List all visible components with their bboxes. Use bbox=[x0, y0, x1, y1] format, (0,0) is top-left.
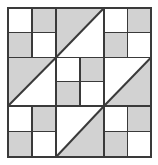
four-patch-center bbox=[56, 58, 104, 107]
four-patch-top-left-patch-top-right bbox=[32, 8, 56, 33]
four-patch-bottom-right-patch-bottom-right bbox=[128, 132, 152, 158]
four-patch-top-right bbox=[104, 8, 151, 58]
four-patch-bottom-right-patch-bottom-left bbox=[104, 132, 128, 158]
four-patch-bottom-right-patch-top-left bbox=[104, 106, 128, 132]
four-patch-center-patch-top-left bbox=[56, 58, 80, 82]
four-patch-center-patch-bottom-left bbox=[56, 82, 80, 106]
four-patch-bottom-left-patch-bottom-right bbox=[32, 132, 56, 158]
four-patch-top-right-patch-top-left bbox=[104, 8, 128, 33]
four-patch-top-right-patch-bottom-left bbox=[104, 33, 128, 58]
four-patch-bottom-right-patch-top-right bbox=[128, 106, 152, 132]
half-square-triangle-middle-left bbox=[8, 58, 56, 107]
half-square-triangle-top-center bbox=[56, 8, 104, 58]
four-patch-top-left-patch-bottom-right bbox=[32, 33, 56, 58]
quilt-block-figure bbox=[0, 0, 158, 165]
quilt-block-svg bbox=[0, 0, 158, 165]
four-patch-top-right-patch-bottom-right bbox=[128, 33, 152, 58]
four-patch-bottom-left-patch-bottom-left bbox=[8, 132, 32, 158]
four-patch-center-patch-bottom-right bbox=[80, 82, 104, 106]
four-patch-top-left bbox=[8, 8, 56, 58]
four-patch-top-left-patch-top-left bbox=[8, 8, 32, 33]
four-patch-bottom-left-patch-top-right bbox=[32, 106, 56, 132]
four-patch-bottom-left bbox=[8, 106, 56, 157]
four-patch-bottom-right bbox=[104, 106, 151, 157]
four-patch-center-patch-top-right bbox=[80, 58, 104, 82]
half-square-triangle-bottom-center bbox=[56, 106, 104, 157]
four-patch-bottom-left-patch-top-left bbox=[8, 106, 32, 132]
half-square-triangle-middle-right bbox=[104, 58, 151, 107]
four-patch-top-left-patch-bottom-left bbox=[8, 33, 32, 58]
four-patch-top-right-patch-top-right bbox=[128, 8, 152, 33]
